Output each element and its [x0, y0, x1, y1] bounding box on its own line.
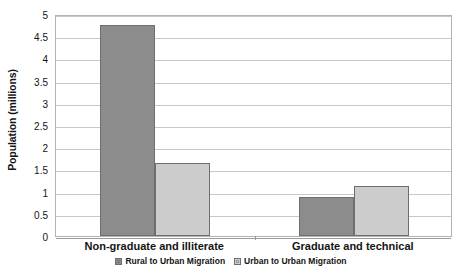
gridline [56, 238, 451, 239]
bars-layer [56, 16, 451, 236]
chart-legend: Rural to Urban MigrationUrban to Urban M… [0, 256, 462, 266]
x-axis-category-label: Non-graduate and illiterate [85, 240, 224, 252]
bar [155, 163, 210, 236]
legend-label: Rural to Urban Migration [125, 256, 225, 266]
legend-swatch-icon [234, 258, 241, 265]
y-axis-title-text: Population (millions) [6, 69, 18, 171]
y-axis-tick-label: 0.5 [34, 209, 48, 220]
y-axis-tick-label: 2 [42, 143, 48, 154]
bar [354, 186, 409, 236]
y-axis-tick-label: 4 [42, 54, 48, 65]
y-axis-tick-label: 2.5 [34, 121, 48, 132]
bar [299, 197, 354, 236]
y-axis-tick-label: 3.5 [34, 76, 48, 87]
x-axis-category-labels: Non-graduate and illiterateGraduate and … [55, 240, 452, 256]
plot-area [55, 15, 452, 237]
bar [100, 25, 155, 236]
y-axis-tick-label: 3 [42, 98, 48, 109]
y-axis-tick-label: 1.5 [34, 165, 48, 176]
y-axis-title: Population (millions) [0, 0, 24, 240]
x-axis-category-label: Graduate and technical [292, 240, 414, 252]
legend-swatch-icon [115, 258, 122, 265]
bar-chart: Population (millions) 00.511.522.533.544… [0, 0, 462, 272]
y-axis-tick-label: 4.5 [34, 32, 48, 43]
legend-entry[interactable]: Urban to Urban Migration [234, 256, 346, 266]
legend-entry[interactable]: Rural to Urban Migration [115, 256, 225, 266]
y-axis-tick-label: 0 [42, 232, 48, 243]
y-axis-tick-label: 5 [42, 10, 48, 21]
y-axis-tick-label: 1 [42, 187, 48, 198]
y-axis-tick-labels: 00.511.522.533.544.55 [24, 15, 52, 237]
legend-label: Urban to Urban Migration [244, 256, 346, 266]
